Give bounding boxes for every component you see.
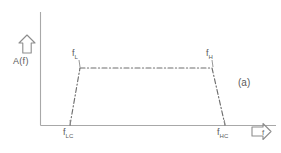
figure-bandpass-response: A(f) fL fH fLC fHC (a) f [0,0,281,153]
y-axis-label: A(f) [13,57,29,66]
curve-falling-edge [212,68,225,125]
annotation-fh: fH [206,49,213,60]
annotation-flc: fLC [63,128,74,139]
x-axis-label: f [262,129,264,137]
panel-caption: (a) [238,78,250,88]
annotation-fhc-sub: HC [220,133,229,139]
tick-flc [70,120,71,126]
curve-rising-edge [70,68,80,125]
annotation-flc-sub: LC [66,133,74,139]
annotation-fl: fL [72,49,78,60]
tick-fhc [224,120,225,126]
annotation-fh-sub: H [209,54,214,60]
tick-fh [212,60,213,67]
tick-fl [79,60,80,67]
up-arrow-outline-icon [19,35,35,53]
annotation-fhc: fHC [217,128,229,139]
annotation-fl-sub: L [75,54,79,60]
